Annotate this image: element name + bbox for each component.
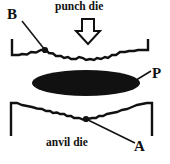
punch-die-body <box>12 39 148 60</box>
leader-b <box>22 21 48 53</box>
figure-schematic: B P A punch die anvil die <box>0 0 170 164</box>
contact-dot-b <box>42 47 48 53</box>
leader-line-a <box>86 119 135 143</box>
label-a: A <box>134 139 145 154</box>
anvil-die-body <box>11 103 152 136</box>
label-p: P <box>152 66 161 81</box>
punch-die-outline <box>12 39 148 60</box>
caption-anvil-die: anvil die <box>46 137 88 149</box>
contact-dot-a <box>83 116 89 122</box>
anvil-die-outline <box>11 103 152 136</box>
caption-punch-die: punch die <box>55 1 103 13</box>
label-b: B <box>7 7 17 22</box>
leader-line-b <box>22 21 45 50</box>
leader-a <box>83 116 135 143</box>
down-arrow-icon <box>76 19 100 44</box>
particle-ellipse <box>32 70 140 96</box>
